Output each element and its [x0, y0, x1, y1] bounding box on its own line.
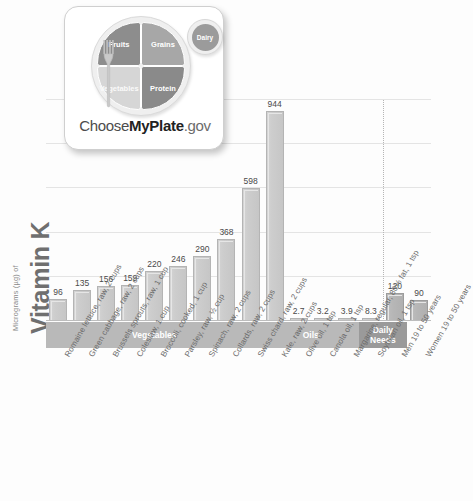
wordmark-choose: Choose — [79, 117, 129, 134]
myplate-logo: Fruits Grains Vegetables Protein Dairy C… — [64, 6, 232, 158]
bar-value-label-7: 368 — [210, 227, 242, 237]
dairy-cup: Dairy — [187, 19, 223, 55]
dairy-label: Dairy — [192, 24, 219, 51]
bar-value-label-0: 96 — [42, 287, 74, 297]
bar-0 — [49, 299, 67, 320]
bar-value-label-8: 598 — [235, 176, 267, 186]
bar-highlight — [219, 241, 233, 320]
x-axis-tick-labels: Romaine lettuce, raw, 2 cupsGreen cabbag… — [0, 348, 435, 501]
bar-highlight — [51, 301, 65, 320]
fork-icon — [103, 38, 115, 108]
y-axis-units-label: Micrograms (µg) of — [11, 265, 20, 331]
logo-card: Fruits Grains Vegetables Protein Dairy C… — [64, 6, 224, 150]
wordmark-gov: .gov — [184, 117, 211, 134]
bar-value-label-9: 944 — [259, 99, 291, 109]
wordmark-myplate: MyPlate — [129, 117, 184, 134]
bar-value-label-6: 290 — [186, 244, 218, 254]
plate-graphic: Fruits Grains Vegetables Protein Dairy — [91, 16, 195, 116]
gridline-600 — [46, 187, 431, 188]
plate-segment-grains: Grains — [141, 22, 185, 66]
logo-wordmark: ChooseMyPlate.gov — [65, 117, 225, 134]
plate-segment-protein: Protein — [141, 66, 185, 110]
bar-value-label-5: 246 — [162, 254, 194, 264]
y-axis-title-group: Micrograms (µg) of Vitamin K — [0, 120, 46, 335]
